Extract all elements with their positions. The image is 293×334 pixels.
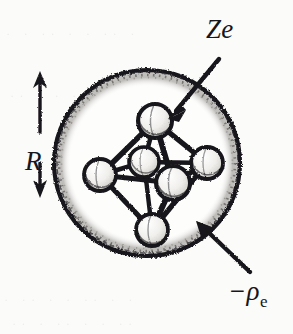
cluster-node-right [191,147,223,179]
cluster-node-bottom [136,214,168,246]
figure-canvas: · · ·· · · ·· · ·· · · ·· ·· · · ·· · · … [0,0,293,334]
electron-charge-density-label: −ρe [228,278,268,310]
rho-callout-arrow [196,221,250,272]
cluster-node-top [138,104,172,138]
cluster-node-left [84,159,116,191]
cluster-node-middle-front [156,166,190,200]
cluster-node-middle-back [129,147,159,177]
radius-label: R [25,148,42,175]
rho-symbol: −ρ [228,276,260,306]
rho-subscript: e [260,292,268,311]
radius-dimension-arrow [33,71,47,198]
nuclear-charge-label: Ze [206,16,233,43]
